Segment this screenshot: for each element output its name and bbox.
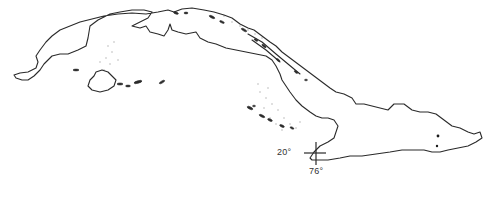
cuba-map xyxy=(0,0,490,214)
latitude-label: 20° xyxy=(277,147,291,157)
coast-point-marker xyxy=(436,145,438,147)
longitude-label: 76° xyxy=(309,166,323,176)
northern-cays xyxy=(173,11,307,81)
shoal-stipple xyxy=(99,15,301,131)
coordinate-cross-marker xyxy=(304,142,326,165)
isla-de-la-juventud xyxy=(88,70,116,92)
southern-cays xyxy=(73,69,294,130)
city-point-marker xyxy=(437,135,440,138)
